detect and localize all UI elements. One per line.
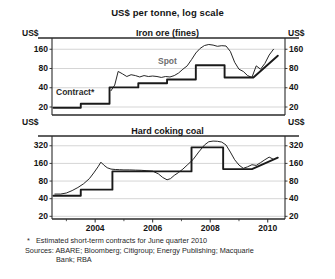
ytick-label-left: 40: [14, 82, 48, 92]
ytick-label-left: 40: [14, 193, 48, 203]
unit-label-bottom-left: US$: [22, 117, 39, 127]
footnote-row: * Estimated short-term contracts for Jun…: [25, 236, 330, 245]
ytick-label-left: 160: [14, 158, 48, 168]
ytick-label-right: 160: [289, 44, 323, 54]
ytick-label-right: 80: [289, 63, 323, 73]
ytick-label-left: 320: [14, 140, 48, 150]
footnote-text: Estimated short-term contracts for June …: [36, 236, 330, 245]
xtick-label: 2010: [250, 223, 286, 233]
xtick-label: 2008: [192, 223, 228, 233]
ytick-label-right: 20: [289, 102, 323, 112]
footnote-marker: *: [25, 236, 32, 245]
ytick-label-left: 20: [14, 102, 48, 112]
sources-row: Sources: ABARE; Bloomberg; Citigroup; En…: [25, 246, 330, 265]
ytick-label-right: 40: [289, 193, 323, 203]
ytick-label-right: 20: [289, 211, 323, 221]
series-label-contract: Contract*: [56, 87, 94, 97]
figure-iron-ore-coking-coal: US$ per tonne, log scale Iron ore (fines…: [0, 0, 335, 279]
xtick-label: 2006: [135, 223, 171, 233]
unit-label-top-right: US$: [288, 28, 305, 38]
panel-0: [38, 38, 299, 115]
series-spot: [55, 141, 274, 194]
ytick-label-right: 80: [289, 176, 323, 186]
panel-title-iron-ore: Iron ore (fines): [0, 28, 335, 38]
ytick-label-left: 80: [14, 63, 48, 73]
xtick-label: 2004: [77, 223, 113, 233]
series-label-spot: Spot: [158, 56, 177, 66]
ytick-label-left: 80: [14, 176, 48, 186]
sources-label: Sources:: [25, 246, 54, 255]
ytick-label-right: 160: [289, 158, 323, 168]
figure-title: US$ per tonne, log scale: [0, 7, 335, 18]
ytick-label-left: 20: [14, 211, 48, 221]
ytick-label-left: 160: [14, 44, 48, 54]
ytick-label-right: 40: [289, 82, 323, 92]
figure-notes: * Estimated short-term contracts for Jun…: [25, 236, 330, 265]
panel-title-hard-coking-coal: Hard coking coal: [0, 126, 335, 136]
unit-label-bottom-right: US$: [288, 117, 305, 127]
sources-text-continued: Bank; RBA: [25, 255, 330, 264]
series-contract: [53, 147, 277, 195]
sources-text: ABARE; Bloomberg; Citigroup; Energy Publ…: [55, 246, 253, 255]
series-spot: [111, 44, 274, 90]
panel-1: [38, 136, 299, 223]
ytick-label-right: 320: [289, 140, 323, 150]
unit-label-top-left: US$: [22, 28, 39, 38]
